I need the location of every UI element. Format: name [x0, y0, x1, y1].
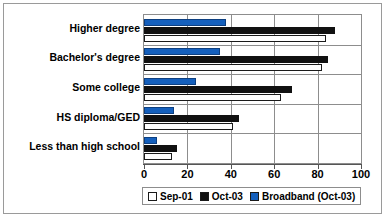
category-label: Some college	[5, 82, 140, 93]
bar-group	[144, 133, 361, 163]
legend-entry: Sep-01	[148, 191, 193, 202]
bar-group	[144, 15, 361, 45]
x-axis-tick-label: 100	[352, 168, 370, 180]
legend-swatch-icon	[200, 192, 209, 201]
bar-oct03	[144, 56, 328, 63]
category-axis: Higher degreeBachelor's degreeSome colle…	[4, 14, 140, 164]
bar-sep01	[144, 35, 326, 42]
category-label: HS diploma/GED	[5, 112, 140, 123]
bar-broadband	[144, 78, 196, 85]
legend-swatch-icon	[250, 192, 259, 201]
category-label: Higher degree	[5, 23, 140, 34]
legend-entry: Oct-03	[200, 191, 243, 202]
bar-broadband	[144, 107, 174, 114]
plot-area	[143, 14, 362, 164]
bar-oct03	[144, 86, 292, 93]
category-separator	[144, 104, 361, 105]
category-separator	[144, 45, 361, 46]
bar-sep01	[144, 94, 281, 101]
bar-oct03	[144, 145, 177, 152]
bar-sep01	[144, 64, 322, 71]
bar-group	[144, 104, 361, 134]
bar-group	[144, 45, 361, 75]
category-separator	[144, 133, 361, 134]
bar-broadband	[144, 19, 226, 26]
gridline	[361, 15, 362, 163]
x-axis-tick-labels: 020406080100	[143, 168, 362, 184]
legend-label: Broadband (Oct-03)	[262, 191, 355, 202]
bar-oct03	[144, 115, 239, 122]
x-axis-tick-label: 60	[268, 168, 280, 180]
legend-entry: Broadband (Oct-03)	[250, 191, 355, 202]
x-axis-tick-label: 40	[225, 168, 237, 180]
bar-broadband	[144, 137, 157, 144]
category-label: Bachelor's degree	[5, 52, 140, 63]
bar-oct03	[144, 27, 335, 34]
x-axis-tick-label: 20	[181, 168, 193, 180]
bar-group	[144, 74, 361, 104]
x-axis-tick-label: 80	[311, 168, 323, 180]
bar-sep01	[144, 123, 233, 130]
category-label: Less than high school	[5, 141, 140, 152]
legend-swatch-icon	[148, 192, 157, 201]
bar-sep01	[144, 153, 172, 160]
x-axis-line	[143, 164, 362, 165]
chart-legend: Sep-01Oct-03Broadband (Oct-03)	[142, 187, 361, 205]
x-axis-tick-label: 0	[141, 168, 147, 180]
category-separator	[144, 74, 361, 75]
bar-broadband	[144, 48, 220, 55]
chart-frame: Higher degreeBachelor's degreeSome colle…	[3, 3, 382, 214]
legend-label: Oct-03	[212, 191, 243, 202]
legend-label: Sep-01	[160, 191, 193, 202]
